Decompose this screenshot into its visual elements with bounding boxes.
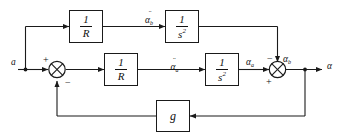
numerator: 1 (177, 14, 187, 26)
sign-sum-right-minus: − (267, 54, 273, 64)
fraction-1-over-R-middle: 1 R (115, 57, 127, 82)
numerator: 1 (116, 57, 126, 69)
fraction-1-over-s2-middle: 1 s2 (216, 57, 228, 83)
block-1-over-s2-middle[interactable]: 1 s2 (205, 53, 239, 86)
fraction-1-over-R-top: 1 R (80, 14, 92, 39)
denominator: s2 (216, 70, 228, 83)
block-1-over-R-middle[interactable]: 1 R (104, 53, 138, 86)
block-1-over-s2-top[interactable]: 1 s2 (165, 10, 199, 43)
sign-sum-left-plus: + (43, 55, 49, 65)
denominator: R (116, 70, 127, 82)
label-input-a: a (11, 58, 16, 68)
double-dot-accent: ¨ (149, 10, 152, 18)
block-1-over-R-top[interactable]: 1 R (69, 10, 103, 43)
g-label: g (170, 109, 176, 124)
sign-sum-left-minus: − (65, 78, 71, 88)
fraction-1-over-s2-top: 1 s2 (176, 14, 188, 40)
label-alpha-ddot-a: ¨ αa (170, 62, 178, 72)
label-alpha-ddot-b: ¨ αb (145, 15, 155, 25)
sign-sum-right-plus: + (266, 77, 272, 87)
numerator: 1 (81, 14, 91, 26)
numerator: 1 (217, 57, 227, 69)
block-g-feedback[interactable]: g (156, 100, 190, 132)
double-dot-accent: ¨ (173, 57, 176, 65)
label-alpha-b: αb (283, 55, 291, 65)
junction-dot-input (24, 68, 28, 72)
label-output-alpha: α (327, 62, 332, 72)
denominator: R (81, 27, 92, 39)
denominator: s2 (176, 27, 188, 40)
block-diagram-canvas: 1 R 1 s2 1 R 1 s2 g a α ¨ αb (0, 0, 342, 138)
label-alpha-a: αa (246, 58, 254, 68)
